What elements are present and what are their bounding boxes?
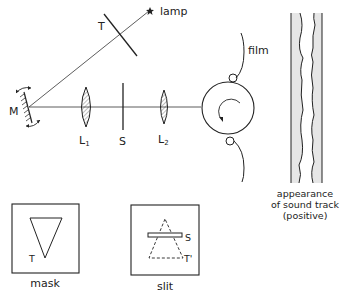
film-path-bottom	[234, 141, 244, 182]
filter-t-label: T	[97, 20, 105, 33]
lens-l1-label: L1	[79, 134, 90, 148]
lens-l2-icon	[161, 90, 168, 124]
mask-box	[12, 204, 79, 273]
filter-t-line	[104, 14, 137, 56]
slit-bar-label: S	[185, 232, 191, 243]
film-path-top	[236, 33, 244, 78]
sound-track-caption-2: of sound track	[271, 199, 340, 210]
sound-track-caption-1: appearance	[277, 188, 334, 199]
rotating-drum	[202, 74, 254, 145]
mirror-label: M	[9, 105, 19, 118]
mask-caption: mask	[30, 277, 60, 290]
lens-l2-label: L2	[158, 133, 169, 147]
slit-bar	[148, 233, 182, 237]
slit-triangle-label: T'	[183, 253, 192, 264]
beam-lamp-to-mirror	[29, 11, 149, 107]
sound-track-caption-3: (positive)	[283, 210, 328, 221]
optical-sound-recording-diagram: lamp T M L1 S L2	[0, 0, 347, 296]
lamp-label: lamp	[160, 5, 188, 18]
sound-track	[291, 13, 322, 183]
slit-label: S	[119, 135, 126, 148]
slit-caption: slit	[157, 280, 174, 293]
film-label: film	[248, 44, 269, 57]
mask-triangle-label: T	[28, 253, 35, 264]
lamp-icon	[146, 7, 154, 15]
lens-l1-icon	[82, 87, 91, 127]
slit-triangle-dashed	[149, 219, 183, 258]
mask-triangle	[30, 218, 62, 258]
